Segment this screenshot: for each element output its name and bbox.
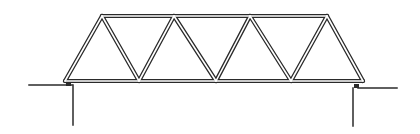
diagonal-member-inner xyxy=(216,16,250,81)
diagonal-member-inner xyxy=(291,16,327,81)
left-bearing xyxy=(66,83,71,86)
diagonal-member-inner xyxy=(174,16,216,81)
diagonal-member-inner xyxy=(250,16,291,81)
truss-members-outline xyxy=(65,16,363,81)
right-bearing xyxy=(354,84,359,88)
diagonal-member-inner xyxy=(327,16,363,81)
truss-bridge-diagram xyxy=(0,0,420,134)
diagonal-member-inner xyxy=(139,16,174,81)
diagonal-member-inner xyxy=(102,16,139,81)
diagonal-member-inner xyxy=(65,16,102,81)
bridge-supports xyxy=(29,83,397,126)
